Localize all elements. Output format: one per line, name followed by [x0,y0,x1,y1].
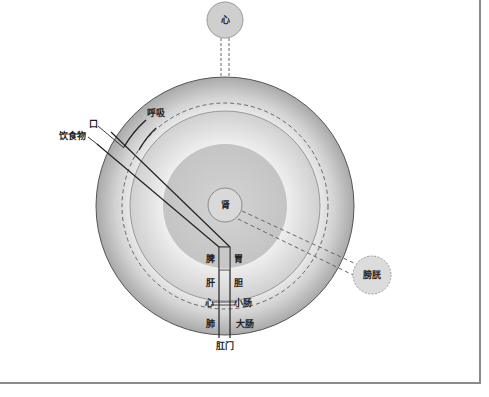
label-liver: 肝 [206,279,215,288]
label-heart-top: 心 [221,16,230,25]
label-gallbladder: 胆 [234,279,243,288]
label-bladder: 膀胱 [363,271,381,280]
label-spleen: 脾 [206,255,215,264]
label-stomach: 胃 [234,255,243,264]
food-leader [88,137,97,144]
label-anus: 肛门 [216,342,234,351]
label-large-intestine: 大肠 [236,320,254,329]
label-heart-inner: 心 [205,299,214,308]
label-breathing: 呼吸 [147,109,165,118]
diagram-canvas [0,0,489,397]
label-kidney: 肾 [221,201,230,210]
label-mouth: 口 [89,120,98,129]
label-food: 饮食物 [59,132,86,141]
label-lung: 肺 [206,320,215,329]
label-small-intestine: 小肠 [234,299,252,308]
